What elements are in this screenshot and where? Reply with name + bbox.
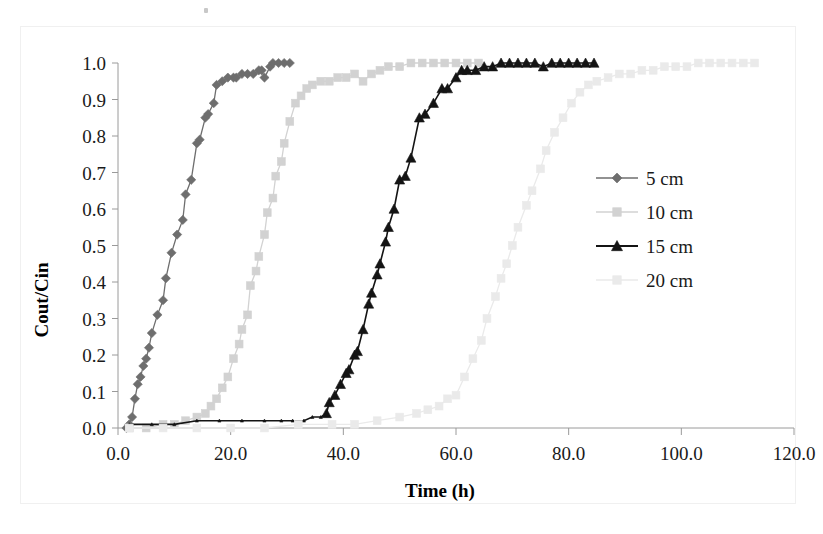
legend-item-5-cm[interactable]: 5 cm (596, 168, 684, 189)
chart-canvas: 0.00.10.20.30.40.50.60.70.80.91.0 0.020.… (0, 0, 823, 534)
y-tick-label: 0.1 (82, 382, 106, 403)
x-tick-label: 0.0 (106, 443, 130, 464)
y-tick-label: 0.9 (82, 90, 106, 111)
x-tick-label: 60.0 (439, 443, 472, 464)
legend-label: 10 cm (646, 202, 693, 223)
y-axis-title: Cout/Cin (31, 262, 52, 337)
y-tick-label: 0.0 (82, 418, 106, 439)
legend-item-10-cm[interactable]: 10 cm (596, 202, 693, 223)
legend-label: 20 cm (646, 270, 693, 291)
chart-legend: 5 cm10 cm15 cm20 cm (596, 168, 693, 291)
y-tick-label: 0.4 (82, 272, 106, 293)
legend-item-20-cm[interactable]: 20 cm (596, 270, 693, 291)
x-tick-label: 40.0 (327, 443, 360, 464)
chart-page: 0.00.10.20.30.40.50.60.70.80.91.0 0.020.… (0, 0, 823, 534)
x-tick-label: 20.0 (214, 443, 247, 464)
y-tick-label: 0.6 (82, 199, 106, 220)
x-tick-label: 80.0 (552, 443, 585, 464)
x-axis-title: Time (h) (405, 480, 475, 502)
series-5-cm (122, 58, 295, 432)
x-tick-label: 120.0 (773, 443, 816, 464)
y-tick-label: 0.2 (82, 345, 106, 366)
x-tick-labels: 0.020.040.060.080.0100.0120.0 (106, 443, 815, 464)
y-tick-label: 1.0 (82, 53, 106, 74)
x-tick-label: 100.0 (660, 443, 703, 464)
y-tick-label: 0.5 (82, 236, 106, 257)
legend-label: 15 cm (646, 236, 693, 257)
y-tick-label: 0.7 (82, 163, 106, 184)
y-tick-label: 0.8 (82, 126, 106, 147)
legend-item-15-cm[interactable]: 15 cm (596, 236, 693, 257)
series-10-cm (125, 59, 482, 432)
y-tick-labels: 0.00.10.20.30.40.50.60.70.80.91.0 (82, 53, 106, 439)
legend-label: 5 cm (646, 168, 684, 189)
y-tick-label: 0.3 (82, 309, 106, 330)
series-15-cm (128, 58, 599, 426)
